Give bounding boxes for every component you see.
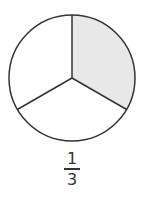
fraction-circle: [0, 0, 143, 145]
numerator: 1: [60, 150, 84, 167]
divider-left: [17, 78, 72, 110]
denominator: 3: [60, 171, 84, 188]
fraction-label: 1 3: [60, 150, 84, 188]
